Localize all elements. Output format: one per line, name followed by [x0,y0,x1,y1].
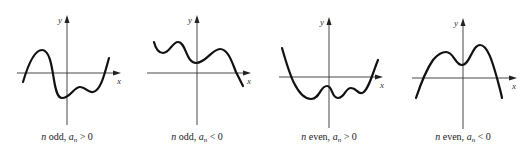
panel-even-positive: y x n even, an > 0 [279,17,384,144]
panel-caption: n odd, an < 0 [171,131,223,144]
polynomial-curve [416,45,502,98]
x-axis-arrow-icon [243,71,251,76]
x-axis-label: x [116,76,121,86]
panel-caption: n odd, an > 0 [41,131,93,144]
panel-caption: n even, an > 0 [301,131,357,144]
y-axis-label: y [319,17,324,27]
y-axis-arrow-icon [327,17,332,25]
panel-even-negative: y x n even, an < 0 [412,18,517,144]
x-axis-arrow-icon [375,75,383,80]
y-axis-arrow-icon [461,18,466,26]
x-axis-arrow-icon [113,71,121,76]
polynomial-curve [282,48,378,99]
x-axis-label: x [379,80,384,90]
x-axis-arrow-icon [509,76,517,81]
panel-odd-negative: y x n odd, an < 0 [147,15,251,144]
polynomial-end-behavior-figure: y x n odd, an > 0 y x n odd, an < 0 y x … [0,0,530,155]
panel-caption: n even, an < 0 [435,131,491,144]
polynomial-curve [154,42,243,86]
y-axis-arrow-icon [65,15,70,23]
y-axis-arrow-icon [195,15,200,23]
y-axis-label: y [57,15,62,25]
y-axis-label: y [453,18,458,28]
x-axis-label: x [511,81,516,91]
polynomial-curve [23,50,109,98]
y-axis-label: y [187,15,192,25]
panel-odd-positive: y x n odd, an > 0 [17,15,121,144]
x-axis-label: x [246,76,251,86]
